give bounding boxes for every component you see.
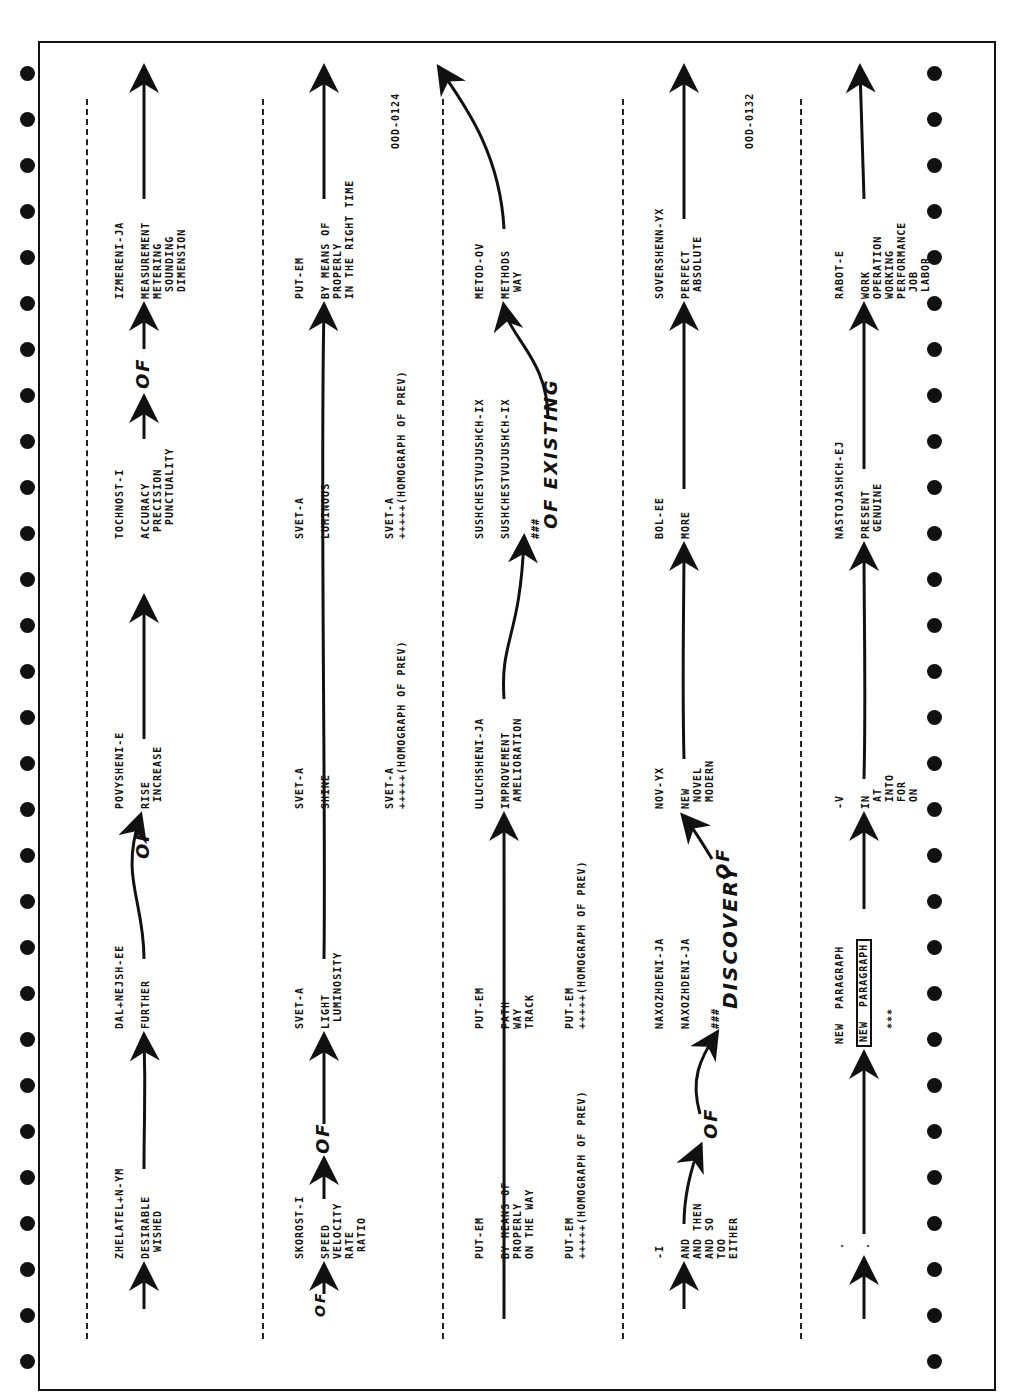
hand-drawn-arrows (0, 0, 1022, 1399)
rotated-printout-sheet: ZHELATEL+N-YM DESIRABLE WISHED DAL+NEJSH… (0, 0, 1022, 1399)
scanned-page: ZHELATEL+N-YM DESIRABLE WISHED DAL+NEJSH… (0, 0, 1022, 1399)
